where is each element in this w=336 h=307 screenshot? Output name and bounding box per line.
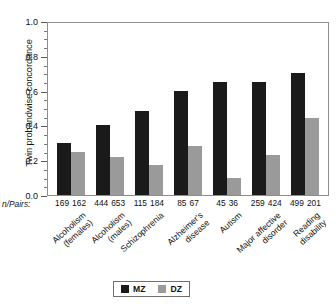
chart-legend: MZDZ [113,281,190,297]
bar-mz [135,111,149,195]
bar-dz [227,178,241,195]
npairs-dz: 424 [268,198,282,208]
bar-group [207,23,246,195]
bar-group [130,23,169,195]
bar-dz [188,146,202,195]
npairs-mz: 45 [216,198,225,208]
legend-label: DZ [170,284,181,294]
bar-mz [252,82,266,195]
npairs-cell: 259424 [247,198,286,208]
legend-swatch [121,285,129,293]
npairs-dz: 162 [72,198,86,208]
npairs-cell: 115184 [129,198,168,208]
npairs-mz: 85 [177,198,186,208]
npairs-mz: 259 [251,198,265,208]
npairs-dz: 36 [229,198,238,208]
bar-dz [110,157,124,195]
bar-group [246,23,285,195]
legend-item: MZ [121,284,145,294]
x-axis-category-labels: Alcoholism(females)Alcoholism(males)Schi… [47,210,329,272]
bar-mz [174,91,188,195]
bar-dz [149,165,163,195]
npairs-mz: 444 [94,198,108,208]
npairs-mz: 169 [55,198,69,208]
y-axis-tick-label: 0.6 [25,87,38,97]
bar-group [285,23,324,195]
npairs-dz: 653 [111,198,125,208]
npairs-dz: 184 [150,198,164,208]
y-axis-tick-label: 0.2 [25,156,38,166]
bar-groups [48,23,328,195]
x-axis-label-line: Alzheimer's [131,210,205,278]
npairs-row-label: n/Pairs: [2,199,30,209]
concordance-bar-chart: Twin probandwise concordance 0.00.20.40.… [0,0,336,307]
bar-group [169,23,208,195]
legend-item: DZ [158,284,181,294]
npairs-dz: 67 [189,198,198,208]
bar-mz [291,73,305,195]
bar-dz [71,152,85,196]
bar-mz [96,125,110,195]
bar-dz [305,118,319,195]
bar-group [52,23,91,195]
npairs-cell: 4536 [208,198,247,208]
y-axis-tick-label: 1.0 [25,17,38,27]
legend-label: MZ [133,284,145,294]
npairs-cell: 499201 [286,198,325,208]
bar-dz [266,155,280,195]
npairs-cell: 8567 [168,198,207,208]
y-axis: 0.00.20.40.60.81.0 [0,22,47,196]
y-axis-tick-label: 0.8 [25,52,38,62]
bar-mz [213,82,227,195]
bar-mz [57,143,71,195]
npairs-mz: 115 [134,198,147,208]
npairs-mz: 499 [290,198,304,208]
npairs-values-row: 16916244465311518485674536259424499201 [47,198,329,208]
plot-area [47,22,329,196]
y-axis-tick-label: 0.4 [25,121,38,131]
npairs-cell: 169162 [51,198,90,208]
y-axis-tick [41,196,47,197]
npairs-cell: 444653 [90,198,129,208]
legend-swatch [158,285,166,293]
bar-group [91,23,130,195]
npairs-dz: 201 [307,198,321,208]
